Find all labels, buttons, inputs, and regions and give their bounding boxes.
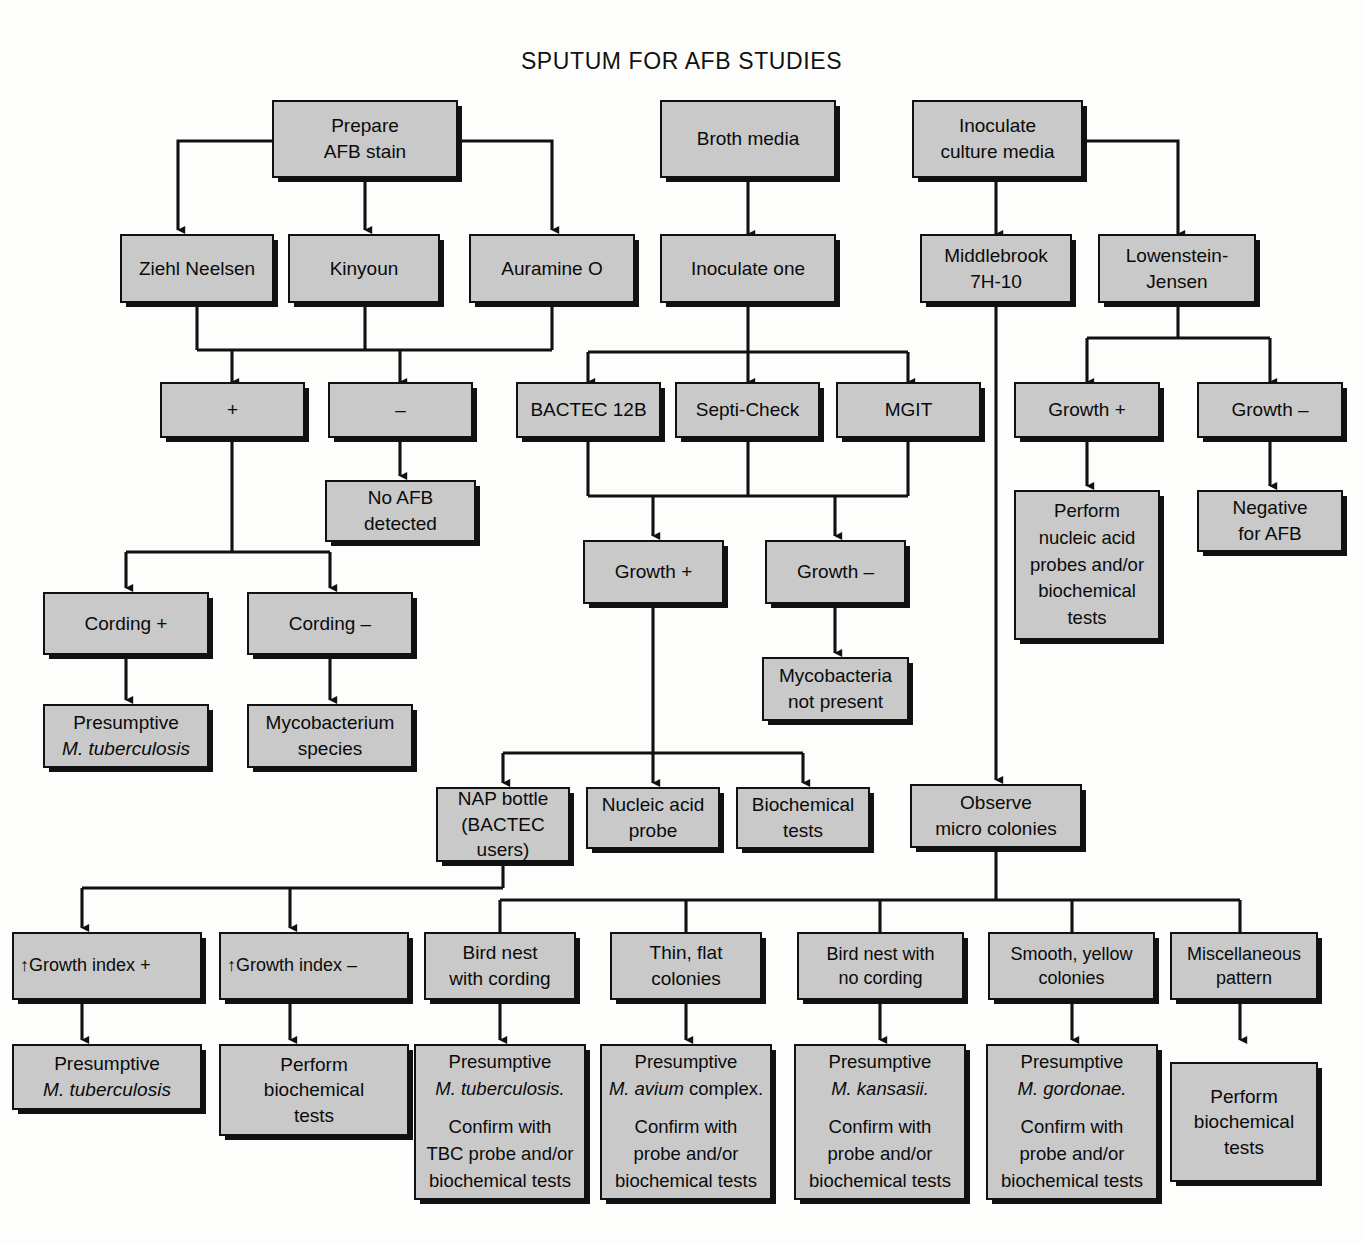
res-tbc-line4: TBC probe and/or bbox=[426, 1143, 573, 1164]
res-gordonae-line3: Confirm with bbox=[1021, 1116, 1124, 1137]
node-middlebrook-7h10[interactable]: Middlebrook 7H-10 bbox=[920, 234, 1072, 303]
res-avium-line5: biochemical tests bbox=[615, 1170, 757, 1191]
presumptive-mtb-cording-line1: Presumptive bbox=[73, 712, 179, 733]
thin-flat-line2: colonies bbox=[651, 968, 721, 989]
res-misc-line3: tests bbox=[1224, 1137, 1264, 1158]
thin-flat-line1: Thin, flat bbox=[650, 942, 723, 963]
negative-for-afb-line1: Negative bbox=[1233, 497, 1308, 518]
mycobacteria-absent-line1: Mycobacteria bbox=[779, 665, 892, 686]
smear-negative-label: – bbox=[334, 398, 467, 421]
node-cording-negative[interactable]: Cording – bbox=[247, 592, 413, 655]
res-misc-line2: biochemical bbox=[1194, 1111, 1294, 1132]
bactec-12b-label: BACTEC 12B bbox=[522, 398, 655, 421]
node-bird-nest-with-cording[interactable]: Bird nest with cording bbox=[424, 932, 576, 1000]
bird-nest-cording-line1: Bird nest bbox=[463, 942, 538, 963]
node-presumptive-mtb-cording[interactable]: Presumptive M. tuberculosis bbox=[43, 704, 209, 768]
node-auramine-o[interactable]: Auramine O bbox=[469, 234, 635, 303]
final-mtb-line1: Presumptive bbox=[54, 1053, 160, 1074]
node-ziehl-neelsen[interactable]: Ziehl Neelsen bbox=[120, 234, 274, 303]
perform-nap-line2: nucleic acid bbox=[1039, 527, 1136, 548]
node-negative-for-afb[interactable]: Negative for AFB bbox=[1197, 490, 1343, 552]
res-kansasii-line2: M. kansasii. bbox=[831, 1078, 929, 1099]
res-tbc-line2: M. tuberculosis. bbox=[435, 1078, 565, 1099]
smooth-yellow-line1: Smooth, yellow bbox=[1010, 944, 1132, 964]
node-inoculate-culture-media[interactable]: Inoculate culture media bbox=[912, 100, 1083, 178]
res-misc-line1: Perform bbox=[1210, 1086, 1278, 1107]
node-septi-check[interactable]: Septi-Check bbox=[675, 382, 820, 438]
node-perform-biochemical-tests[interactable]: Perform biochemical tests bbox=[219, 1044, 409, 1136]
node-cording-positive[interactable]: Cording + bbox=[43, 592, 209, 655]
bird-nest-no-cording-line1: Bird nest with bbox=[826, 944, 934, 964]
res-kansasii-line5: biochemical tests bbox=[809, 1170, 951, 1191]
node-miscellaneous-pattern[interactable]: Miscellaneous pattern bbox=[1170, 932, 1318, 1000]
node-lowenstein-jensen[interactable]: Lowenstein- Jensen bbox=[1098, 234, 1256, 303]
node-smear-negative[interactable]: – bbox=[328, 382, 473, 438]
inoculate-one-label: Inoculate one bbox=[666, 257, 830, 280]
node-biochemical-tests[interactable]: Biochemical tests bbox=[736, 787, 870, 849]
node-no-afb-detected[interactable]: No AFB detected bbox=[325, 480, 476, 542]
nucleic-acid-probe-line1: Nucleic acid bbox=[602, 794, 704, 815]
middlebrook-line2: 7H-10 bbox=[970, 271, 1022, 292]
broth-growth-negative-label: Growth – bbox=[771, 560, 900, 583]
node-mycobacteria-not-present[interactable]: Mycobacteria not present bbox=[762, 657, 909, 721]
node-mgit[interactable]: MGIT bbox=[836, 382, 981, 438]
node-mycobacterium-species[interactable]: Mycobacterium species bbox=[247, 704, 413, 768]
node-result-kansasii-confirm[interactable]: Presumptive M. kansasii. Confirm with pr… bbox=[794, 1044, 966, 1200]
biochemical-tests-line2: tests bbox=[783, 820, 823, 841]
final-mtb-line2: M. tuberculosis bbox=[43, 1079, 171, 1100]
node-result-mtb-confirm[interactable]: Presumptive M. tuberculosis. Confirm wit… bbox=[414, 1044, 586, 1200]
broth-growth-positive-label: Growth + bbox=[589, 560, 718, 583]
ziehl-neelsen-label: Ziehl Neelsen bbox=[126, 257, 268, 280]
node-lj-growth-positive[interactable]: Growth + bbox=[1014, 382, 1160, 438]
septi-check-label: Septi-Check bbox=[681, 398, 814, 421]
node-growth-index-negative[interactable]: ↑Growth index – bbox=[219, 932, 409, 1000]
growth-index-positive-label: ↑Growth index + bbox=[20, 955, 196, 977]
node-observe-micro-colonies[interactable]: Observe micro colonies bbox=[910, 784, 1082, 848]
page-title: SPUTUM FOR AFB STUDIES bbox=[0, 48, 1363, 75]
res-avium-line4: probe and/or bbox=[634, 1143, 739, 1164]
cording-negative-label: Cording – bbox=[253, 612, 407, 635]
node-thin-flat-colonies[interactable]: Thin, flat colonies bbox=[610, 932, 762, 1000]
res-avium-line3: Confirm with bbox=[635, 1116, 738, 1137]
node-growth-index-positive[interactable]: ↑Growth index + bbox=[12, 932, 202, 1000]
node-smear-positive[interactable]: + bbox=[160, 382, 305, 438]
node-broth-growth-positive[interactable]: Growth + bbox=[583, 540, 724, 604]
node-result-avium-confirm[interactable]: Presumptive M. avium complex. Confirm wi… bbox=[600, 1044, 772, 1200]
node-bird-nest-no-cording[interactable]: Bird nest with no cording bbox=[797, 932, 964, 1000]
node-broth-media[interactable]: Broth media bbox=[660, 100, 836, 178]
perform-nap-line1: Perform bbox=[1054, 500, 1120, 521]
prepare-afb-stain-line2: AFB stain bbox=[324, 141, 406, 162]
res-kansasii-line4: probe and/or bbox=[828, 1143, 933, 1164]
auramine-o-label: Auramine O bbox=[475, 257, 629, 280]
flowchart-canvas: SPUTUM FOR AFB STUDIES bbox=[0, 0, 1363, 1243]
biochemical-tests-line1: Biochemical bbox=[752, 794, 854, 815]
node-result-miscellaneous-biochemical[interactable]: Perform biochemical tests bbox=[1170, 1062, 1318, 1182]
node-result-gordonae-confirm[interactable]: Presumptive M. gordonae. Confirm with pr… bbox=[986, 1044, 1158, 1200]
node-kinyoun[interactable]: Kinyoun bbox=[288, 234, 440, 303]
nucleic-acid-probe-line2: probe bbox=[629, 820, 678, 841]
node-inoculate-one[interactable]: Inoculate one bbox=[660, 234, 836, 303]
node-smooth-yellow-colonies[interactable]: Smooth, yellow colonies bbox=[988, 932, 1155, 1000]
bird-nest-no-cording-line2: no cording bbox=[838, 968, 922, 988]
res-kansasii-line3: Confirm with bbox=[829, 1116, 932, 1137]
node-nucleic-acid-probe[interactable]: Nucleic acid probe bbox=[586, 787, 720, 849]
nap-bottle-line3: users) bbox=[477, 839, 530, 860]
cording-positive-label: Cording + bbox=[49, 612, 203, 635]
lowenstein-line2: Jensen bbox=[1146, 271, 1207, 292]
lj-growth-positive-label: Growth + bbox=[1020, 398, 1154, 421]
node-final-presumptive-mtb[interactable]: Presumptive M. tuberculosis bbox=[12, 1044, 202, 1110]
res-tbc-line5: biochemical tests bbox=[429, 1170, 571, 1191]
res-tbc-line3: Confirm with bbox=[449, 1116, 552, 1137]
node-bactec-12b[interactable]: BACTEC 12B bbox=[516, 382, 661, 438]
perform-nap-line3: probes and/or bbox=[1030, 554, 1144, 575]
node-perform-nucleic-acid-probes[interactable]: Perform nucleic acid probes and/or bioch… bbox=[1014, 490, 1160, 640]
kinyoun-label: Kinyoun bbox=[294, 257, 434, 280]
perform-biochem-line2: biochemical bbox=[264, 1079, 364, 1100]
node-lj-growth-negative[interactable]: Growth – bbox=[1197, 382, 1343, 438]
node-nap-bottle[interactable]: NAP bottle (BACTEC users) bbox=[436, 787, 570, 862]
node-broth-growth-negative[interactable]: Growth – bbox=[765, 540, 906, 604]
miscellaneous-line2: pattern bbox=[1216, 968, 1272, 988]
miscellaneous-line1: Miscellaneous bbox=[1187, 944, 1301, 964]
res-avium-line2-suffix: complex. bbox=[684, 1078, 763, 1099]
node-prepare-afb-stain[interactable]: Prepare AFB stain bbox=[272, 100, 458, 178]
